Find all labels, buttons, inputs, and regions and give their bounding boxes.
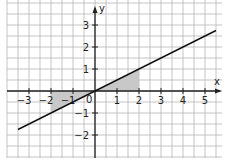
y-axis-label: y (99, 3, 105, 14)
coordinate-plot: −3−2−112345321−1−20xy (0, 0, 228, 160)
x-tick-label: 1 (114, 95, 120, 106)
y-tick-label: 1 (83, 64, 89, 75)
x-axis-label: x (214, 76, 220, 87)
x-tick-label: 3 (158, 95, 164, 106)
y-tick-label: −2 (74, 130, 89, 141)
x-tick-label: −2 (39, 95, 54, 106)
y-axis-arrow-icon (93, 6, 98, 13)
y-tick-label: −1 (74, 108, 89, 119)
x-tick-label: 2 (136, 95, 142, 106)
chart-svg: −3−2−112345321−1−20xy (0, 0, 228, 160)
x-axis-arrow-icon (215, 89, 222, 94)
x-tick-label: 5 (202, 95, 208, 106)
y-tick-label: 3 (83, 20, 89, 31)
x-tick-label: −3 (17, 95, 32, 106)
x-tick-label: 4 (180, 95, 186, 106)
y-tick-label: 2 (83, 42, 89, 53)
